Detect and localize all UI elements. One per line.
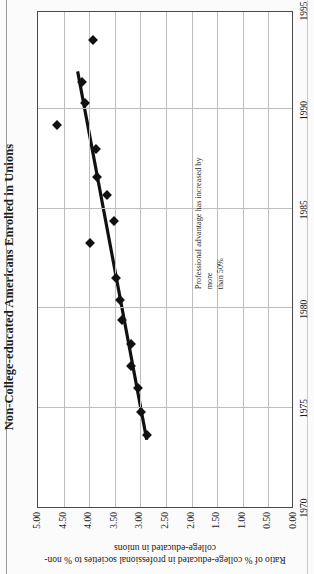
y-axis-tick-label: 4.00 [83, 512, 93, 556]
gridline-horizontal [89, 12, 90, 507]
chart-page: Non-College-educated Americans Enrolled … [0, 0, 314, 574]
annotation-line-2: than 50% [215, 139, 226, 289]
figure: Non-College-educated Americans Enrolled … [0, 0, 314, 574]
y-axis-tick-label: 2.00 [186, 512, 196, 556]
y-axis-tick-label: 0.50 [262, 512, 272, 556]
gridline-horizontal [115, 12, 116, 507]
gridline-horizontal [268, 12, 269, 507]
y-axis-tick-label: 1.00 [237, 512, 247, 556]
rotated-figure-canvas: Non-College-educated Americans Enrolled … [0, 0, 314, 574]
gridline-vertical [38, 208, 292, 209]
y-axis-tick-label: 3.50 [109, 512, 119, 556]
x-axis-tick-label: 1975 [299, 386, 309, 432]
y-axis-tick-label: 3.00 [134, 512, 144, 556]
y-axis-tick-label: 0.00 [288, 512, 298, 556]
x-axis-tick-label: 1990 [299, 87, 309, 133]
gridline-vertical [38, 108, 292, 109]
chart-title: Non-College-educated Americans Enrolled … [2, 0, 17, 574]
y-axis-tick-label: 4.50 [58, 512, 68, 556]
trend-line [38, 12, 292, 507]
gridline-horizontal [64, 12, 65, 507]
chart-annotation: Professional advantage has increased by … [193, 139, 226, 289]
plot-area [37, 11, 293, 508]
gridline-horizontal [166, 12, 167, 507]
y-axis-tick-label: 5.00 [32, 512, 42, 556]
gridline-horizontal [243, 12, 244, 507]
x-axis-tick-label: 1970 [299, 485, 309, 531]
x-axis-tick-label: 1980 [299, 286, 309, 332]
annotation-line-1: Professional advantage has increased by … [193, 139, 215, 289]
gridline-horizontal [140, 12, 141, 507]
x-axis-tick-label: 1995 [299, 0, 309, 34]
gridline-vertical [38, 407, 292, 408]
y-axis-tick-label: 2.50 [160, 512, 170, 556]
x-axis-tick-label: 1985 [299, 187, 309, 233]
gridline-vertical [38, 307, 292, 308]
y-axis-tick-label: 1.50 [211, 512, 221, 556]
